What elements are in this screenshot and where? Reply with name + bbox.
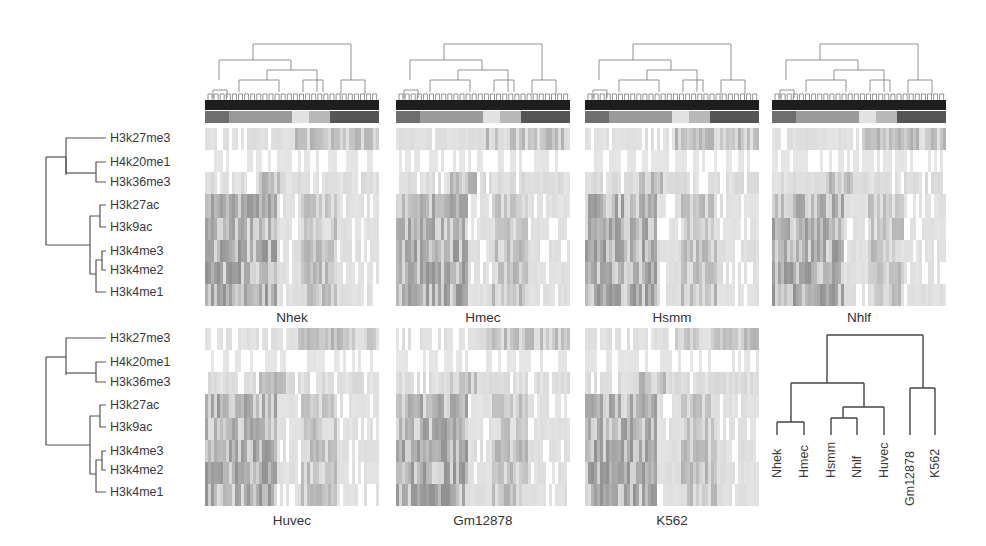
cluster-color-strip — [772, 111, 946, 123]
heatmap — [205, 128, 379, 306]
row-label-h3k4me3: H3k4me3 — [110, 444, 164, 458]
panel-label-nhlf: Nhlf — [772, 310, 946, 325]
cluster-color-strip — [205, 111, 379, 123]
row-label-h3k27me3: H3k27me3 — [110, 131, 170, 145]
cluster-color-segment — [229, 111, 264, 123]
column-dendrogram — [772, 42, 946, 102]
leaf-label-huvec: Huvec — [877, 443, 891, 478]
histone-mark-dendrogram-row1 — [40, 120, 110, 310]
cluster-color-segment — [420, 111, 455, 123]
row-label-h3k4me2: H3k4me2 — [110, 463, 164, 477]
cluster-bar — [205, 100, 379, 110]
row-label-h3k4me1: H3k4me1 — [110, 485, 164, 499]
cluster-color-segment — [772, 111, 796, 123]
panel-label-huvec: Huvec — [205, 513, 379, 528]
cluster-color-segment — [455, 111, 483, 123]
panel-label-k562: K562 — [585, 513, 759, 528]
column-dendrogram — [585, 42, 759, 102]
cluster-color-segment — [483, 111, 500, 123]
cluster-color-segment — [672, 111, 689, 123]
cluster-color-segment — [292, 111, 309, 123]
cluster-color-segment — [831, 111, 859, 123]
leaf-label-nhek: Nhek — [770, 449, 784, 478]
cluster-color-segment — [264, 111, 292, 123]
cluster-bar — [772, 100, 946, 110]
cluster-bar — [585, 100, 759, 110]
leaf-label-gm12878: Gm12878 — [903, 451, 917, 506]
panel-label-gm12878: Gm12878 — [396, 513, 570, 528]
panel-label-nhek: Nhek — [205, 310, 379, 325]
row-label-h3k27ac: H3k27ac — [110, 398, 159, 412]
heatmap — [772, 128, 946, 306]
cluster-color-segment — [396, 111, 420, 123]
panel-label-hsmm: Hsmm — [585, 310, 759, 325]
cluster-color-segment — [796, 111, 831, 123]
heatmap — [396, 328, 570, 506]
leaf-label-hsmm: Hsmm — [824, 442, 838, 478]
cluster-color-segment — [585, 111, 609, 123]
row-label-h4k20me1: H4k20me1 — [110, 155, 170, 169]
cluster-color-segment — [609, 111, 644, 123]
heatmap — [396, 128, 570, 306]
cluster-bar — [396, 100, 570, 110]
cluster-color-segment — [309, 111, 330, 123]
column-dendrogram — [396, 42, 570, 102]
row-label-h3k27me3: H3k27me3 — [110, 331, 170, 345]
cluster-color-strip — [396, 111, 570, 123]
cluster-color-segment — [205, 111, 229, 123]
row-label-h3k9ac: H3k9ac — [110, 420, 152, 434]
leaf-label-nhlf: Nhlf — [850, 456, 864, 478]
cluster-color-strip — [585, 111, 759, 123]
panel-label-hmec: Hmec — [396, 310, 570, 325]
cluster-color-segment — [644, 111, 672, 123]
heatmap — [585, 128, 759, 306]
row-label-h3k4me3: H3k4me3 — [110, 244, 164, 258]
cluster-color-segment — [859, 111, 876, 123]
row-label-h3k27ac: H3k27ac — [110, 198, 159, 212]
cluster-color-segment — [521, 111, 570, 123]
leaf-label-hmec: Hmec — [797, 445, 811, 478]
cluster-color-segment — [710, 111, 759, 123]
row-label-h3k9ac: H3k9ac — [110, 220, 152, 234]
leaf-label-k562: K562 — [928, 449, 942, 478]
cell-type-dendrogram — [760, 330, 960, 440]
column-dendrogram — [205, 42, 379, 102]
heatmap — [585, 328, 759, 506]
cluster-color-segment — [330, 111, 379, 123]
cluster-color-segment — [876, 111, 897, 123]
cluster-color-segment — [897, 111, 946, 123]
row-label-h3k36me3: H3k36me3 — [110, 375, 170, 389]
histone-mark-dendrogram-row2 — [40, 320, 110, 510]
heatmap — [205, 328, 379, 506]
cluster-color-segment — [500, 111, 521, 123]
row-label-h3k36me3: H3k36me3 — [110, 175, 170, 189]
row-label-h4k20me1: H4k20me1 — [110, 355, 170, 369]
row-label-h3k4me1: H3k4me1 — [110, 285, 164, 299]
row-label-h3k4me2: H3k4me2 — [110, 263, 164, 277]
cluster-color-segment — [689, 111, 710, 123]
